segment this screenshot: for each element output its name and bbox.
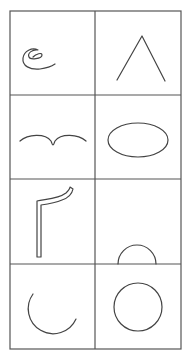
circle-shape xyxy=(114,283,162,331)
bird-wave-shape xyxy=(20,135,86,145)
open-arc-shape xyxy=(28,294,76,334)
hollow-hook-bar-shape xyxy=(37,187,73,257)
shape-grid-diagram xyxy=(0,0,191,359)
ellipse-shape xyxy=(108,123,168,157)
caret-angle-shape xyxy=(117,36,165,81)
semicircle-shape xyxy=(118,245,156,264)
spiral-curve-shape xyxy=(23,49,55,69)
